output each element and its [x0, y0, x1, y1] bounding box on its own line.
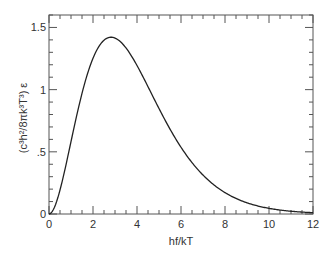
y-tick-label: 0 — [40, 208, 46, 220]
planck-chart: 024681012 0.511.5 hf/kT (c³h²/8πk³T³) ε — [0, 0, 332, 254]
x-tick-label: 10 — [263, 218, 275, 230]
y-tick-label: 1.5 — [31, 21, 46, 33]
major-ticks — [49, 15, 313, 214]
y-axis-label: (c³h²/8πk³T³) ε — [17, 83, 29, 154]
y-tick-label: .5 — [37, 146, 46, 158]
plot-frame — [49, 15, 313, 214]
x-tick-label: 2 — [90, 218, 96, 230]
y-tick-labels: 0.511.5 — [31, 21, 46, 220]
x-tick-label: 0 — [46, 218, 52, 230]
x-tick-label: 8 — [222, 218, 228, 230]
x-tick-labels: 024681012 — [46, 218, 319, 230]
x-tick-label: 6 — [178, 218, 184, 230]
x-tick-label: 4 — [134, 218, 140, 230]
y-tick-label: 1 — [40, 84, 46, 96]
x-tick-label: 12 — [307, 218, 319, 230]
minor-ticks — [49, 15, 313, 214]
x-axis-label: hf/kT — [169, 235, 194, 247]
data-curve — [49, 37, 313, 214]
